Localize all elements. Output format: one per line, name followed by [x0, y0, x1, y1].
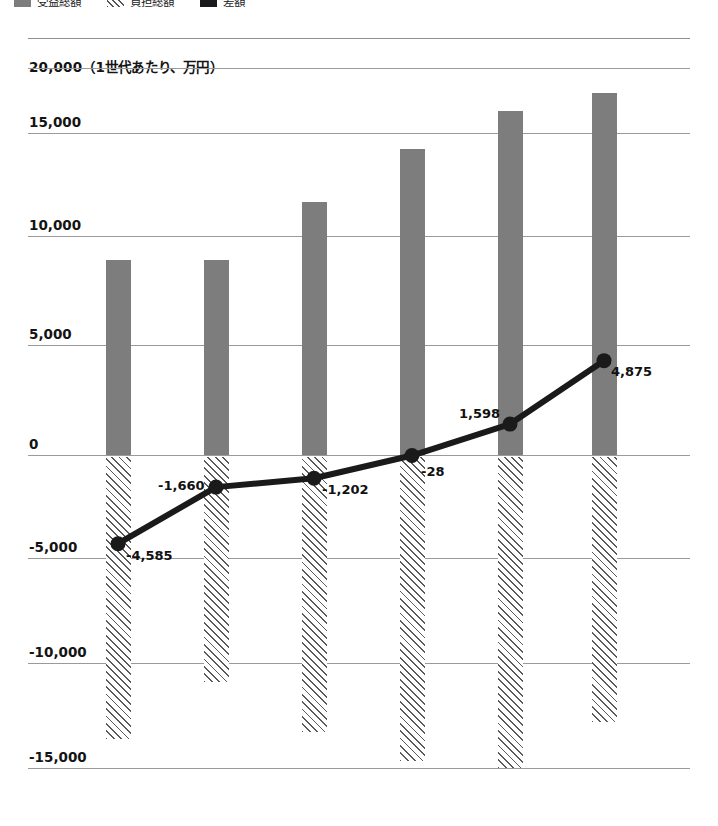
plot-area: 15,000 10,000 5,000 0 -5,000 -10,000 -15… [0, 0, 718, 826]
data-point-label: -4,585 [126, 548, 173, 563]
data-point-label: -1,660 [158, 478, 205, 493]
generational-accounting-chart: 受益総額 負担総額 差額 20,000（1世代あたり、万円） 15,000 10… [0, 0, 718, 826]
point-labels-layer: -4,585-1,660-1,202-281,5984,875 [0, 0, 718, 826]
data-point-label: 4,875 [611, 364, 652, 379]
data-point-label: 1,598 [459, 406, 500, 421]
data-point-label: -28 [421, 464, 445, 479]
data-point-label: -1,202 [322, 482, 369, 497]
